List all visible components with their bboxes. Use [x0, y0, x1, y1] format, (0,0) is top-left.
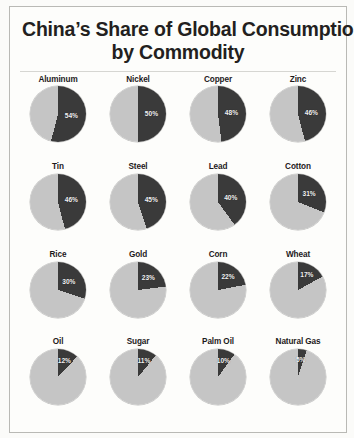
pie-slices [190, 262, 246, 318]
pie-chart-lead: Lead40% [178, 163, 258, 251]
pie-graphic: 22% [190, 262, 246, 318]
pie-graphic: 10% [190, 349, 246, 405]
pie-label: Wheat [286, 251, 310, 259]
pie-graphic: 40% [190, 174, 246, 230]
pie-label: Palm Oil [202, 338, 234, 346]
pie-graphic: 54% [30, 86, 86, 142]
pie-label: Sugar [127, 338, 150, 346]
pie-slices [270, 86, 326, 142]
pie-slices [110, 86, 166, 142]
pie-label: Nickel [126, 76, 150, 84]
pie-label: Tin [52, 163, 64, 171]
pie-label: Cotton [285, 163, 311, 171]
pie-chart-copper: Copper48% [178, 76, 258, 164]
pie-slices [110, 349, 166, 405]
pie-slices [110, 174, 166, 230]
pie-graphic: 23% [110, 262, 166, 318]
pie-chart-corn: Corn22% [178, 251, 258, 339]
pie-label: Gold [129, 251, 147, 259]
pie-chart-zinc: Zinc46% [258, 76, 338, 164]
pie-graphic: 45% [110, 174, 166, 230]
pie-chart-grid: Aluminum54%Nickel50%Copper48%Zinc46%Tin4… [18, 72, 338, 426]
pie-graphic: 46% [270, 86, 326, 142]
pie-slices [270, 174, 326, 230]
page-title-line-2: by Commodity [22, 41, 334, 64]
pie-chart-palm-oil: Palm Oil10% [178, 338, 258, 426]
pie-graphic: 50% [110, 86, 166, 142]
pie-graphic: 48% [190, 86, 246, 142]
pie-chart-sugar: Sugar11% [98, 338, 178, 426]
pie-label: Oil [53, 338, 64, 346]
pie-label: Corn [209, 251, 228, 259]
pie-slices [110, 262, 166, 318]
pie-slices [190, 86, 246, 142]
pie-graphic: 30% [30, 262, 86, 318]
pie-label: Natural Gas [276, 338, 321, 346]
pie-chart-gold: Gold23% [98, 251, 178, 339]
pie-chart-nickel: Nickel50% [98, 76, 178, 164]
pie-graphic: 46% [30, 174, 86, 230]
pie-slices [270, 349, 326, 405]
pie-slices [30, 349, 86, 405]
pie-label: Steel [128, 163, 147, 171]
pie-chart-aluminum: Aluminum54% [18, 76, 98, 164]
pie-slices [30, 262, 86, 318]
pie-slices [30, 86, 86, 142]
pie-slices [190, 349, 246, 405]
pie-graphic: 12% [30, 349, 86, 405]
pie-label: Copper [204, 76, 232, 84]
title-block: China’s Share of Global Consumption by C… [18, 16, 338, 64]
pie-graphic: 11% [110, 349, 166, 405]
pie-label: Zinc [290, 76, 306, 84]
pie-graphic: 5% [270, 349, 326, 405]
page-title-line-1: China’s Share of Global Consumption [22, 18, 334, 41]
pie-graphic: 31% [270, 174, 326, 230]
pie-label: Rice [50, 251, 67, 259]
pie-slices [270, 262, 326, 318]
infographic-root: China’s Share of Global Consumption by C… [0, 0, 354, 438]
pie-chart-natural-gas: Natural Gas5% [258, 338, 338, 426]
infographic-frame: China’s Share of Global Consumption by C… [9, 6, 347, 433]
pie-chart-oil: Oil12% [18, 338, 98, 426]
pie-graphic: 17% [270, 262, 326, 318]
pie-chart-wheat: Wheat17% [258, 251, 338, 339]
pie-chart-cotton: Cotton31% [258, 163, 338, 251]
pie-label: Aluminum [38, 76, 77, 84]
pie-chart-rice: Rice30% [18, 251, 98, 339]
pie-slices [30, 174, 86, 230]
pie-chart-steel: Steel45% [98, 163, 178, 251]
pie-slices [190, 174, 246, 230]
pie-chart-tin: Tin46% [18, 163, 98, 251]
pie-label: Lead [209, 163, 228, 171]
